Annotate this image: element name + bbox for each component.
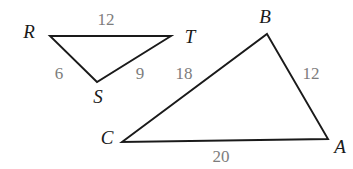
vertex-label-c: C	[101, 128, 114, 147]
side-label-ba: 12	[303, 65, 320, 82]
side-label-rt: 12	[98, 11, 115, 28]
geometry-figure: R T S 12 6 9 B A C 18 12 20	[0, 0, 353, 169]
side-label-rs: 6	[55, 65, 64, 82]
triangle-abc-outline	[122, 34, 328, 142]
vertex-label-a: A	[334, 137, 346, 156]
vertex-label-r: R	[23, 22, 35, 41]
side-label-ca: 20	[213, 148, 230, 165]
side-label-cb: 18	[176, 65, 193, 82]
triangles-canvas	[0, 0, 353, 169]
vertex-label-b: B	[259, 7, 271, 26]
vertex-label-t: T	[185, 27, 196, 46]
side-label-st: 9	[136, 65, 145, 82]
vertex-label-s: S	[93, 87, 103, 106]
triangle-rst-outline	[50, 36, 171, 82]
